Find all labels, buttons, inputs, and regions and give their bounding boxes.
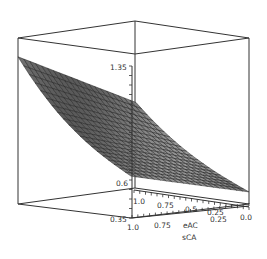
eac-axis-title: eAC xyxy=(183,221,198,230)
eac-tick-label: 1.0 xyxy=(133,197,145,206)
box-edge-top-left-back xyxy=(18,21,135,38)
sca-tick-label: 0.25 xyxy=(210,215,227,224)
box-edge-back-right-bottom xyxy=(135,188,249,204)
eac-tick-label: 0.0 xyxy=(240,213,252,222)
box-edge-top-left-front xyxy=(18,38,135,54)
surface-plot[interactable]: 1.35 0.6 0.35 1.0 0.75 0.5 0.25 0.0 eAC … xyxy=(0,0,267,259)
sca-axis-title: sCA xyxy=(182,233,197,242)
z-tick-label-0.35: 0.35 xyxy=(110,215,127,224)
z-tick-label-0.6: 0.6 xyxy=(116,179,128,188)
surface-mesh xyxy=(18,57,249,192)
eac-tick-label: 0.75 xyxy=(157,201,174,210)
box-edge-top-right-front xyxy=(135,38,249,54)
z-tick-label-1.35: 1.35 xyxy=(110,63,127,72)
sca-tick-label: 0.75 xyxy=(154,221,171,230)
box-edge-back-left-bottom xyxy=(18,188,135,204)
box-edge-top-right-back xyxy=(135,21,249,38)
sca-tick-label: 1.0 xyxy=(127,223,139,232)
